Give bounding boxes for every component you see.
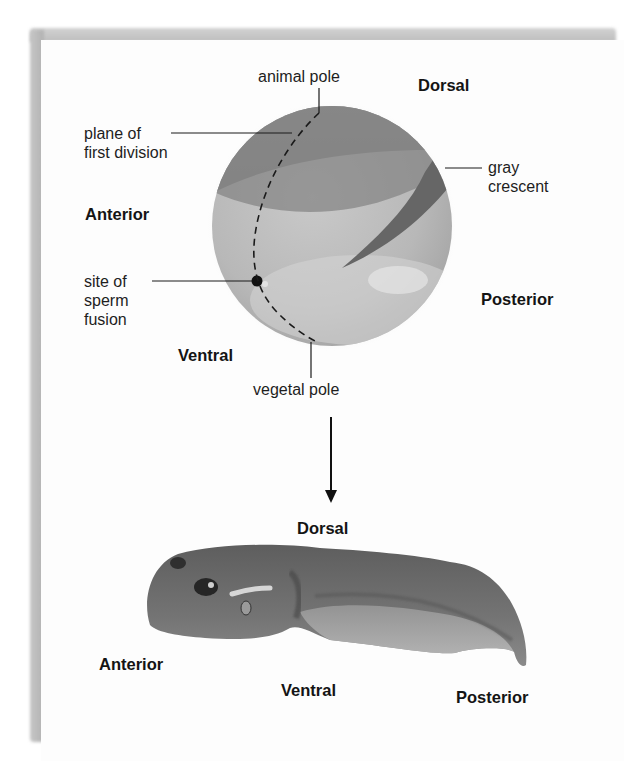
label-egg-anterior: Anterior bbox=[85, 205, 149, 224]
label-tadpole-dorsal: Dorsal bbox=[297, 519, 348, 538]
label-tadpole-anterior: Anterior bbox=[99, 655, 163, 674]
label-vegetal-pole: vegetal pole bbox=[253, 380, 339, 399]
label-animal-pole: animal pole bbox=[258, 67, 340, 86]
label-gray-crescent: gray crescent bbox=[488, 158, 548, 196]
tadpole bbox=[147, 545, 526, 666]
label-site-of-sperm-fusion: site of sperm fusion bbox=[84, 272, 128, 329]
label-egg-dorsal: Dorsal bbox=[418, 76, 469, 95]
label-egg-ventral: Ventral bbox=[178, 346, 233, 365]
frog-egg bbox=[200, 80, 520, 352]
label-egg-posterior: Posterior bbox=[481, 290, 553, 309]
label-tadpole-posterior: Posterior bbox=[456, 688, 528, 707]
tadpole-eye bbox=[194, 578, 218, 596]
tadpole-nostril bbox=[170, 557, 186, 569]
label-tadpole-ventral: Ventral bbox=[281, 681, 336, 700]
label-plane-of-first-division: plane of first division bbox=[84, 124, 168, 162]
arrow-down-icon bbox=[325, 417, 337, 503]
